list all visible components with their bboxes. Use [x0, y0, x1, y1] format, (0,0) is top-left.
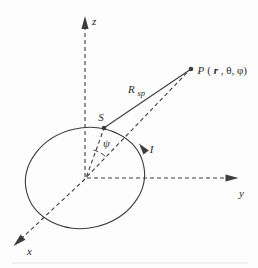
- current-label: I: [149, 143, 155, 155]
- source-point-dot: [102, 126, 107, 131]
- z-axis-label: z: [91, 15, 97, 27]
- y-axis-arrowhead-icon: [226, 175, 239, 182]
- x-axis-label: x: [26, 245, 32, 257]
- origin-to-p-dashed-line: [87, 71, 189, 177]
- field-point-label: P ( r , θ, φ): [197, 64, 248, 77]
- field-point-dot: [189, 67, 194, 72]
- field-point-r: r: [214, 64, 219, 76]
- labels-group: z y x S P ( r , θ, φ) R sp ψ I: [26, 15, 247, 257]
- geometry-group: [15, 29, 226, 240]
- y-axis-label: y: [238, 187, 244, 199]
- z-axis-arrowhead-icon: [81, 16, 88, 29]
- psi-angle-arc: [94, 150, 107, 158]
- physics-diagram: z y x S P ( r , θ, φ) R sp ψ I: [0, 0, 258, 268]
- marks-group: [11, 16, 238, 249]
- field-point-p: P: [197, 64, 205, 76]
- field-point-open-paren: (: [207, 64, 211, 77]
- field-point-angles: , θ, φ): [221, 64, 248, 77]
- psi-angle-label: ψ: [103, 137, 110, 149]
- current-direction-arrowhead-icon: [136, 141, 148, 154]
- r-sp-subscript: sp: [137, 88, 145, 98]
- source-point-label: S: [98, 111, 104, 123]
- r-sp-vector-line: [105, 70, 191, 128]
- diagram-canvas: z y x S P ( r , θ, φ) R sp ψ I: [0, 0, 258, 268]
- r-sp-symbol: R: [127, 83, 135, 95]
- r-sp-label: R sp: [127, 83, 145, 98]
